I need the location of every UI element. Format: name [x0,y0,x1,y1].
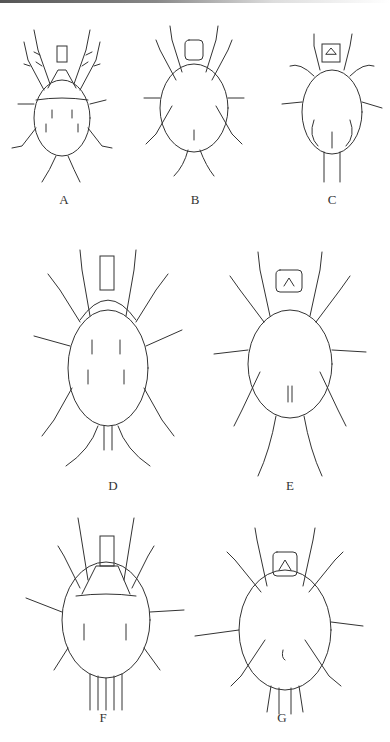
panel-b-illustration [130,0,260,190]
panel-g-label: G [277,710,286,726]
panel-d-illustration [20,240,200,480]
panel-c-label: C [328,192,337,208]
panel-d-label: D [108,478,117,494]
panel-c-illustration [270,0,390,190]
panel-a-label: A [59,192,68,208]
panel-g-illustration [195,500,380,720]
panel-f-label: F [99,710,106,726]
panel-a-illustration [0,0,130,190]
panel-e-label: E [286,478,294,494]
panel-e-illustration [200,240,380,480]
panel-f-illustration [20,500,200,720]
panel-b-label: B [191,192,200,208]
